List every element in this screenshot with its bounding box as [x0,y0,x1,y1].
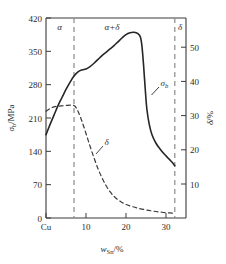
left-tick-label-420: 420 [29,14,43,24]
left-tick-label-210: 210 [29,114,43,124]
x-tick-label-10: 10 [82,222,92,232]
chart-figure: 420 350 280 210 140 70 0 50 40 30 20 10 [0,0,226,264]
left-tick-label-140: 140 [29,147,43,157]
right-tick-label-50: 50 [190,43,200,53]
right-axis-title: δ/% [205,110,215,125]
left-tick-label-280: 280 [29,80,43,90]
right-tick-label-40: 40 [190,77,200,87]
x-tick-label-30: 30 [162,222,172,232]
chart-background [0,0,226,264]
cu-sn-properties-chart: 420 350 280 210 140 70 0 50 40 30 20 10 [0,0,226,264]
right-tick-label-20: 20 [190,145,200,155]
left-tick-label-350: 350 [29,47,43,57]
left-tick-label-70: 70 [33,180,43,190]
x-tick-label-cu: Cu [41,222,52,232]
left-axis-title: σb/MPa [6,104,17,131]
x-tick-label-20: 20 [122,222,132,232]
right-tick-label-10: 10 [190,180,200,190]
right-tick-label-30: 30 [190,111,200,121]
phase-label-alpha: α [57,22,62,32]
phase-label-alpha-plus-delta: α+δ [105,22,121,32]
